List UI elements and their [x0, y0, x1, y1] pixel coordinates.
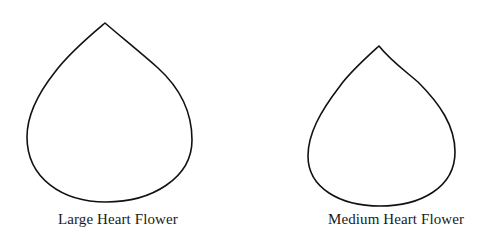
large-heart-flower-label: Large Heart Flower [58, 211, 178, 228]
medium-heart-flower-label: Medium Heart Flower [328, 211, 464, 228]
template-sheet [0, 0, 493, 242]
medium-petal-outline [308, 46, 455, 206]
large-petal-outline [27, 23, 192, 202]
petal-outlines [0, 0, 493, 242]
